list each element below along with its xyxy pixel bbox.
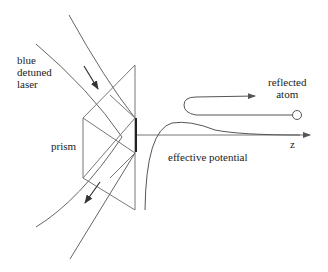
- prism-label: prism: [51, 140, 76, 152]
- effective-potential-label: effective potential: [168, 151, 248, 163]
- incoming-arrow-icon: [84, 66, 98, 89]
- laser-label-line-2: detuned: [17, 66, 52, 78]
- atom-icon: [293, 111, 302, 120]
- prism-shape: [83, 65, 135, 210]
- outgoing-laser-beam: [36, 137, 135, 259]
- atom-label-line-1: reflected: [268, 76, 306, 88]
- reflected-atom-label: reflected atom: [268, 76, 306, 100]
- atom-label-line-2: atom: [268, 88, 306, 100]
- outgoing-arrow-icon: [85, 182, 100, 203]
- laser-label-line-3: laser: [17, 78, 52, 90]
- laser-label-line-1: blue: [17, 54, 52, 66]
- z-axis-label: z: [290, 138, 295, 150]
- evanescent-wave-mirror-diagram: [0, 0, 328, 272]
- laser-label: blue detuned laser: [17, 54, 52, 90]
